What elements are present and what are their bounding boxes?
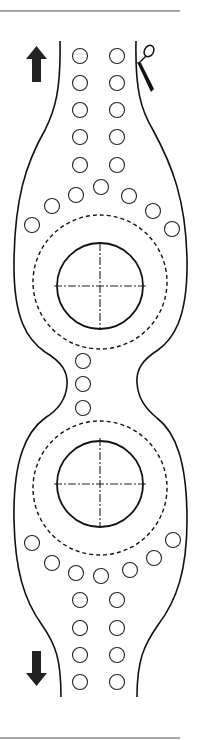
lower-column-holes [73, 593, 125, 690]
lower-lens [33, 421, 167, 555]
upper-column-holes [73, 49, 125, 173]
waist-holes [76, 354, 91, 416]
pattern-diagram [0, 0, 200, 740]
outline-left [14, 41, 67, 697]
upper-arc-holes [25, 180, 180, 237]
arrow-down-icon [26, 651, 47, 686]
outline-right [136, 41, 187, 697]
lower-arc-holes [25, 533, 181, 584]
scissors-icon [137, 44, 156, 92]
upper-lens [33, 215, 167, 349]
arrow-up-icon [26, 46, 47, 82]
